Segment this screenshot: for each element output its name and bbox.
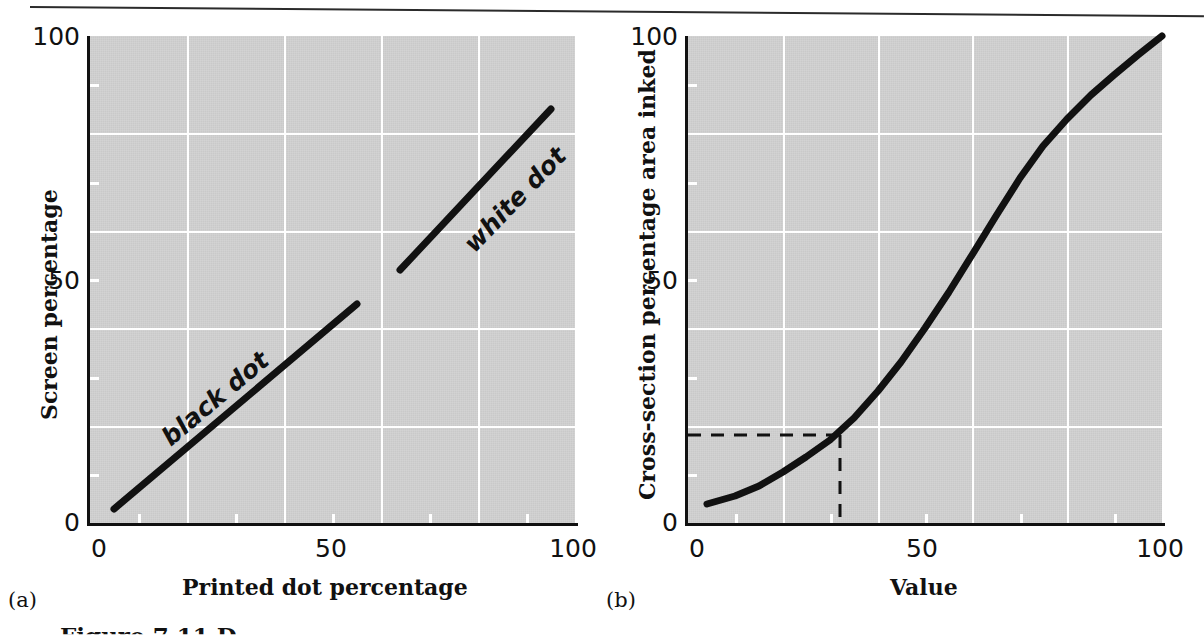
panel-a-x-axis-title: Printed dot percentage (182, 574, 468, 600)
panel-b-ytick-0: 0 (622, 508, 678, 537)
panel-b-xtick-100: 100 (1130, 534, 1190, 563)
panel-b-x-axis-title: Value (890, 574, 958, 600)
panel-a-y-axis-title: Screen percentage (36, 189, 62, 420)
panel-a-xtick-50: 50 (311, 534, 351, 563)
figure-area: black dot white dot 100 50 0 0 50 100 Pr… (0, 0, 1204, 637)
panel-b-tag: (b) (606, 588, 636, 612)
panel-a-ytick-0: 0 (24, 508, 80, 537)
panel-b-y-axis (685, 36, 688, 526)
panel-a-ytick-100: 100 (24, 22, 80, 51)
panel-b-xtick-50: 50 (902, 534, 942, 563)
panel-b: 100 50 0 0 50 100 Value Cross-section pe… (602, 0, 1204, 637)
panel-a-y-axis (87, 36, 90, 526)
panel-b-data-curve (688, 36, 1162, 523)
panel-a-tag: (a) (8, 588, 37, 612)
panel-a-data-lines (90, 36, 575, 523)
figure-page: black dot white dot 100 50 0 0 50 100 Pr… (0, 0, 1204, 637)
series-curve-tone-reproduction (707, 36, 1162, 504)
panel-a-xtick-100: 100 (543, 534, 603, 563)
panel-a-xtick-0: 0 (79, 534, 119, 563)
panel-b-x-axis (685, 523, 1165, 526)
panel-a-x-axis (87, 523, 578, 526)
panel-b-ytick-100: 100 (622, 22, 678, 51)
panel-b-y-axis-title: Cross-section percentage area inked (634, 49, 660, 500)
panel-b-xtick-0: 0 (677, 534, 717, 563)
panel-a-plot-area (90, 36, 575, 523)
panel-b-plot-area (688, 36, 1162, 523)
series-line-black-dot (114, 304, 357, 509)
panel-a: black dot white dot 100 50 0 0 50 100 Pr… (0, 0, 602, 637)
